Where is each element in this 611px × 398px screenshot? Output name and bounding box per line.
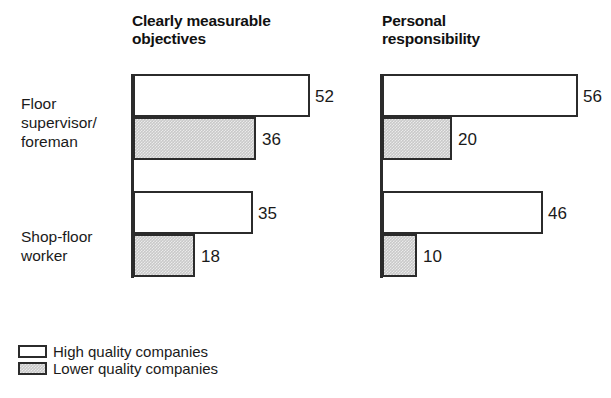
legend-label-lower-quality-companies: Lower quality companies	[53, 361, 218, 377]
bar-high-quality-shop-floor-worker-panel-b	[382, 191, 543, 234]
legend-item-lower-quality-companies: Lower quality companies	[18, 360, 218, 377]
bar-value-56: 56	[583, 88, 602, 105]
legend-item-high-quality-companies: High quality companies	[18, 343, 218, 360]
legend-label-high-quality-companies: High quality companies	[53, 344, 208, 360]
bar-value-10: 10	[423, 248, 442, 265]
chart-legend: High quality companies Lower quality com…	[18, 343, 218, 377]
legend-swatch-lower-quality-icon	[18, 362, 47, 375]
bar-value-46: 46	[548, 205, 567, 222]
bar-value-20: 20	[458, 131, 477, 148]
bar-high-quality-floor-supervisor-panel-b	[382, 74, 578, 117]
bar-lower-quality-shop-floor-worker-panel-b	[382, 234, 417, 277]
bar-lower-quality-floor-supervisor-panel-b	[382, 117, 452, 160]
chart-figure: Clearly measurable objectives Personal r…	[0, 0, 611, 398]
legend-swatch-high-quality-icon	[18, 345, 47, 358]
plot-area-panel-b: 56 20 46 10	[0, 0, 611, 398]
